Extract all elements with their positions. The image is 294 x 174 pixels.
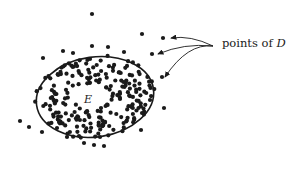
- point: [111, 128, 115, 132]
- point: [119, 115, 123, 119]
- point: [144, 91, 148, 95]
- point: [134, 90, 138, 94]
- point: [91, 65, 95, 69]
- point: [92, 143, 96, 147]
- point: [102, 144, 106, 148]
- point: [71, 51, 75, 55]
- point: [99, 59, 103, 63]
- point: [63, 123, 67, 127]
- point: [41, 104, 45, 108]
- point: [110, 94, 114, 98]
- point: [138, 93, 142, 97]
- point: [52, 115, 56, 119]
- point: [147, 84, 151, 88]
- point: [162, 106, 166, 110]
- point: [85, 110, 89, 114]
- point: [52, 98, 56, 102]
- point: [105, 76, 109, 80]
- point: [40, 130, 44, 134]
- point: [113, 78, 117, 82]
- point: [133, 79, 137, 83]
- point: [67, 118, 71, 122]
- point: [132, 118, 136, 122]
- point: [110, 98, 114, 102]
- point: [98, 78, 102, 82]
- point: [138, 72, 142, 76]
- point: [98, 127, 102, 131]
- point: [68, 130, 72, 134]
- point: [85, 76, 89, 80]
- point: [63, 96, 67, 100]
- point: [125, 64, 129, 68]
- point: [122, 50, 126, 54]
- point: [107, 124, 111, 128]
- point: [95, 63, 99, 67]
- point: [75, 64, 79, 68]
- point: [143, 103, 147, 107]
- point: [97, 121, 101, 125]
- arrow: [171, 37, 213, 46]
- point: [78, 106, 82, 110]
- point: [77, 82, 81, 86]
- point: [104, 85, 108, 89]
- point: [104, 72, 108, 76]
- point: [70, 74, 74, 78]
- point: [74, 103, 78, 107]
- point: [99, 106, 103, 110]
- point: [109, 111, 113, 115]
- point: [48, 107, 52, 111]
- data-points: [18, 12, 166, 148]
- point: [115, 93, 119, 97]
- point: [65, 91, 69, 95]
- point: [57, 120, 61, 124]
- point: [70, 113, 74, 117]
- label-prefix: points of: [222, 36, 276, 50]
- point: [79, 73, 83, 77]
- point: [134, 108, 138, 112]
- point: [121, 80, 125, 84]
- point: [71, 84, 75, 88]
- point: [48, 104, 52, 108]
- point: [66, 81, 70, 85]
- point: [18, 119, 22, 123]
- point: [82, 118, 86, 122]
- point: [139, 128, 143, 132]
- point: [130, 73, 134, 77]
- point: [114, 112, 118, 116]
- point: [103, 120, 107, 124]
- point: [160, 75, 164, 79]
- point: [140, 111, 144, 115]
- point: [150, 52, 154, 56]
- point: [105, 103, 109, 107]
- point: [56, 115, 60, 119]
- point: [126, 104, 130, 108]
- point: [75, 125, 79, 129]
- point: [120, 85, 124, 89]
- arrow: [165, 46, 213, 77]
- label-variable: D: [276, 36, 285, 50]
- point: [139, 101, 143, 105]
- point: [126, 90, 130, 94]
- point: [61, 49, 65, 53]
- point: [109, 84, 113, 88]
- ellipse-label: E: [84, 93, 92, 106]
- point: [27, 125, 31, 129]
- point: [75, 130, 79, 134]
- point: [52, 84, 56, 88]
- point: [85, 81, 89, 85]
- point: [64, 111, 68, 115]
- point: [106, 45, 110, 49]
- point: [89, 126, 93, 130]
- point: [148, 98, 152, 102]
- arrows: [158, 37, 213, 77]
- point: [56, 73, 60, 77]
- point: [73, 110, 77, 114]
- point: [63, 103, 67, 107]
- point: [140, 32, 144, 36]
- point: [84, 126, 88, 130]
- point: [93, 73, 97, 77]
- point: [78, 118, 82, 122]
- point: [117, 70, 121, 74]
- point: [90, 44, 94, 48]
- point: [122, 121, 126, 125]
